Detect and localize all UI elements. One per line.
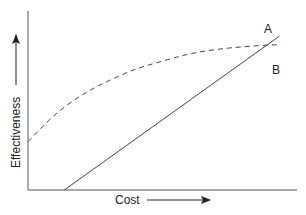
x-axis-label: Cost	[115, 193, 140, 207]
series-line-a	[64, 36, 279, 190]
cost-effectiveness-chart: A B Effectiveness Cost	[0, 0, 306, 215]
y-axis-label: Effectiveness	[9, 97, 23, 168]
series-label-b: B	[272, 63, 280, 77]
series-line-b	[28, 45, 281, 142]
series-label-a: A	[264, 22, 272, 36]
